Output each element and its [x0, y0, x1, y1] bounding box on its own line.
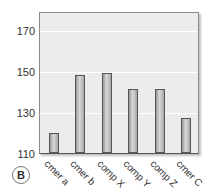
bar [75, 75, 85, 153]
y-tick-label: 110 [17, 148, 35, 160]
x-tick-label: comp Z [148, 158, 179, 189]
bar [155, 89, 165, 153]
bar [49, 133, 59, 154]
bar [181, 118, 191, 153]
panel-label: B [12, 166, 30, 184]
x-tick-label: comp X [95, 158, 127, 190]
bar [128, 89, 138, 153]
gridline [40, 31, 198, 32]
y-tick-label: 150 [17, 66, 35, 78]
bar [102, 73, 112, 153]
x-tick-label: cmer b [68, 158, 97, 187]
plot-area [39, 12, 199, 154]
x-tick-label: cmer a [42, 158, 71, 187]
x-tick-label: cmer C [174, 158, 205, 189]
y-tick-label: 170 [17, 25, 35, 37]
x-tick-label: comp Y [121, 158, 153, 190]
gridline [40, 72, 198, 73]
y-tick-label: 130 [17, 107, 35, 119]
gridline [40, 113, 198, 114]
